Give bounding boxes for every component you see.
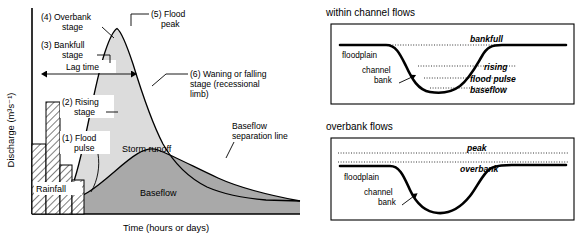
annotation-5-flood-peak: (5) Flood peak: [131, 9, 186, 29]
hydrograph-figure: Rainfall Discharge (m³s⁻¹) Time (hours o…: [0, 0, 580, 237]
flood-pulse-label: flood pulse: [470, 74, 516, 84]
annotation-6-line3: limb): [190, 89, 209, 99]
within-channel-heading: within channel flows: [325, 7, 415, 18]
hydrograph-svg: Rainfall Discharge (m³s⁻¹) Time (hours o…: [0, 0, 320, 237]
annotation-2-line2: stage: [74, 107, 95, 117]
y-axis-label: Discharge (m³s⁻¹): [5, 93, 16, 168]
annotation-6-line1: (6) Waning or falling: [190, 69, 267, 79]
within-channel-bank-line1: channel: [362, 66, 391, 75]
within-floodplain-label: floodplain: [342, 51, 377, 60]
annotation-4-overbank-stage: (4) Overbank stage: [41, 12, 114, 38]
annotation-2-rising-stage: (2) Rising stage: [60, 95, 118, 118]
peak-label: peak: [466, 143, 488, 153]
cross-sections-panel: within channel flows bankfull floodplain…: [320, 0, 580, 237]
rainfall-bar-2: [46, 102, 60, 214]
overbank-label: overbank: [460, 164, 499, 174]
lag-time-label: Lag time: [66, 62, 99, 72]
annotation-3-line2: stage: [62, 50, 83, 60]
annotation-3-line1: (3) Bankfull: [41, 40, 85, 50]
baseflow-separation-line1: Baseflow: [232, 121, 268, 131]
baseflow-label: Baseflow: [140, 188, 177, 198]
annotation-6-leader: [152, 74, 188, 86]
overbank-heading: overbank flows: [326, 121, 393, 132]
annotation-5-line2: peak: [161, 19, 180, 29]
x-axis-label: Time (hours or days): [123, 222, 209, 233]
annotation-4-line2: stage: [62, 22, 83, 32]
annotation-4-leader: [102, 27, 114, 38]
annotation-2-line1: (2) Rising: [62, 97, 99, 107]
overbank-floodplain-label: floodplain: [344, 173, 379, 182]
overbank-flows-section: overbank flows peak overbank floodplain …: [326, 121, 574, 220]
annotation-1-line2: pulse: [74, 143, 95, 153]
within-baseflow-label: baseflow: [470, 85, 508, 95]
overbank-channel-bank-line2: bank: [378, 198, 397, 207]
rainfall-bars: Rainfall: [32, 102, 84, 214]
annotation-4-line1: (4) Overbank: [41, 12, 92, 22]
rainfall-bar-1: [32, 144, 46, 214]
annotation-6-line2: stage (recessional: [190, 79, 260, 89]
baseflow-separation-line2: separation line: [232, 131, 288, 141]
overbank-channel-bank-line1: channel: [364, 188, 393, 197]
rising-label: rising: [484, 62, 508, 72]
annotation-1-line1: (1) Flood: [62, 133, 97, 143]
rainfall-label: Rainfall: [36, 184, 66, 194]
storm-runoff-label: Storm runoff: [122, 144, 172, 154]
annotation-6-waning-stage: (6) Waning or falling stage (recessional…: [152, 69, 267, 99]
baseflow-separation-leader: [226, 142, 234, 158]
cross-sections-svg: within channel flows bankfull floodplain…: [320, 0, 580, 237]
within-channel-flows-section: within channel flows bankfull floodplain…: [325, 7, 574, 104]
within-channel-box: [331, 24, 574, 104]
annotation-3-bankfull-stage: (3) Bankfull stage: [41, 40, 110, 63]
bankfull-label: bankfull: [470, 34, 504, 44]
within-channel-bank-line2: bank: [374, 76, 393, 85]
annotation-5-line1: (5) Flood: [151, 9, 186, 19]
annotation-5-leader: [131, 14, 149, 26]
baseflow-separation-callout: Baseflow separation line: [226, 121, 288, 158]
storm-hydrograph-panel: Rainfall Discharge (m³s⁻¹) Time (hours o…: [0, 0, 320, 237]
